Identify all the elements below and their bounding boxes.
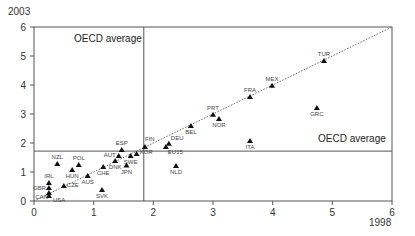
- data-point-nld: NLD: [170, 163, 183, 175]
- y-tick-label: 3: [20, 109, 26, 120]
- data-point-can: CAN: [35, 190, 52, 200]
- triangle-marker-icon: [46, 180, 52, 185]
- triangle-marker-icon: [116, 153, 122, 158]
- x-tick-label: 6: [389, 207, 395, 218]
- point-label: USA: [53, 197, 65, 203]
- x-tick-label: 3: [210, 207, 216, 218]
- point-label: SVK: [96, 193, 108, 199]
- data-point-aus: AUS: [82, 173, 94, 185]
- triangle-marker-icon: [128, 153, 134, 158]
- point-label: HUN: [66, 173, 79, 179]
- x-tick-label: 2: [151, 207, 157, 218]
- point-label: NLD: [170, 169, 183, 175]
- data-point-mex: MEX: [266, 76, 279, 88]
- point-label: GRC: [310, 111, 324, 117]
- data-point-bel: BEL: [185, 123, 197, 135]
- point-label: POL: [73, 155, 86, 161]
- triangle-marker-icon: [269, 83, 275, 88]
- scatter-chart: 2003 1998 0123456 0123456 OECD average O…: [0, 0, 415, 236]
- triangle-marker-icon: [119, 147, 125, 152]
- point-label: SWE: [124, 159, 138, 165]
- point-label: NOR: [212, 122, 226, 128]
- data-point-hun: HUN: [66, 167, 79, 179]
- data-point-grc: GRC: [310, 105, 324, 117]
- point-label: AUS: [82, 179, 94, 185]
- point-label: CZE: [67, 182, 79, 188]
- y-tick-label: 2: [20, 138, 26, 149]
- point-label: DNK: [109, 164, 122, 170]
- data-point-tur: TUR: [318, 51, 331, 63]
- data-point-che: CHE: [97, 164, 110, 176]
- triangle-marker-icon: [112, 158, 118, 163]
- y-tick-label: 6: [20, 22, 26, 33]
- point-label: PRT: [207, 105, 219, 111]
- triangle-marker-icon: [216, 116, 222, 121]
- triangle-marker-icon: [76, 162, 82, 167]
- triangle-marker-icon: [69, 167, 75, 172]
- y-tick-label: 5: [20, 51, 26, 62]
- data-point-cze: CZE: [61, 182, 79, 188]
- data-point-deu: DEU: [166, 135, 184, 146]
- point-label: FRA: [244, 87, 256, 93]
- triangle-marker-icon: [99, 187, 105, 192]
- point-label: TUR: [318, 51, 331, 57]
- data-point-prt: PRT: [207, 105, 219, 117]
- triangle-marker-icon: [166, 141, 172, 146]
- data-point-nor: NOR: [212, 116, 226, 128]
- triangle-marker-icon: [247, 138, 253, 143]
- triangle-marker-icon: [54, 161, 60, 166]
- x-tick-label: 0: [31, 207, 37, 218]
- x-tick-label: 5: [330, 207, 336, 218]
- data-point-ita: ITA: [246, 138, 255, 150]
- data-point-pol: POL: [73, 155, 86, 167]
- y-tick-label: 0: [20, 196, 26, 207]
- data-point-nzl: NZL: [52, 154, 64, 166]
- triangle-marker-icon: [314, 105, 320, 110]
- data-point-kor: KOR: [134, 149, 154, 156]
- x-axis-ticks: 0123456: [31, 201, 395, 218]
- data-point-dnk: DNK: [109, 158, 122, 170]
- point-label: ITA: [246, 144, 255, 150]
- point-label: BEL: [185, 129, 197, 135]
- data-point-irl: IRL: [44, 173, 54, 185]
- x-tick-label: 4: [270, 207, 276, 218]
- point-label: CAN: [35, 194, 48, 200]
- point-label: MEX: [266, 76, 279, 82]
- oecd-average-label-top: OECD average: [74, 33, 142, 44]
- x-axis-title: 1998: [369, 217, 392, 228]
- point-label: FIN: [145, 136, 155, 142]
- y-axis-ticks: 0123456: [20, 22, 34, 207]
- triangle-marker-icon: [173, 163, 179, 168]
- y-tick-label: 1: [20, 167, 26, 178]
- data-point-gbr: GBR: [33, 185, 52, 191]
- point-label: ESP: [116, 140, 128, 146]
- point-label: GBR: [33, 185, 47, 191]
- point-label: IRL: [44, 173, 54, 179]
- point-label: EU15: [168, 149, 184, 155]
- point-label: NZL: [52, 154, 64, 160]
- oecd-average-label-right: OECD average: [318, 133, 386, 144]
- data-point-aut: AUT: [104, 152, 122, 158]
- triangle-marker-icon: [142, 144, 148, 149]
- triangle-marker-icon: [46, 185, 52, 190]
- point-label: JPN: [121, 169, 132, 175]
- data-point-fra: FRA: [244, 87, 256, 99]
- point-label: AUT: [104, 152, 116, 158]
- data-point-svk: SVK: [96, 187, 108, 199]
- point-label: KOR: [140, 149, 154, 155]
- point-label: DEU: [171, 135, 184, 141]
- y-tick-label: 4: [20, 80, 26, 91]
- x-tick-label: 1: [91, 207, 97, 218]
- point-label: CHE: [97, 170, 110, 176]
- y-axis-title: 2003: [8, 6, 31, 17]
- triangle-marker-icon: [247, 94, 253, 99]
- data-point-esp: ESP: [116, 140, 128, 152]
